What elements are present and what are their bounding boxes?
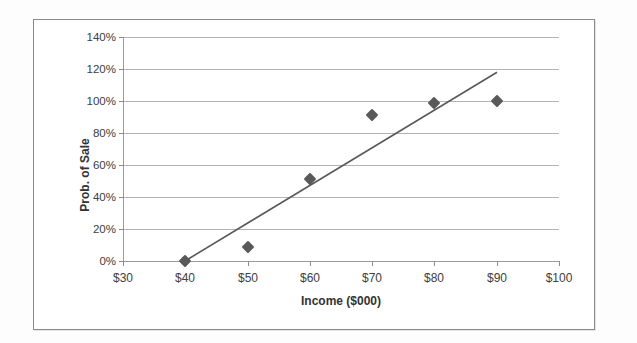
y-tick-label-100: 100% (87, 95, 116, 107)
y-tick-label-60: 60% (93, 159, 116, 171)
x-tick-label-80: $80 (424, 271, 444, 285)
y-tick-label-0: 0% (99, 255, 116, 267)
x-tick-90 (497, 261, 498, 266)
x-tick-60 (310, 261, 311, 266)
scanned-page-background: Prob. of Sale 0% 20% 40% 60% 8 (0, 0, 637, 343)
x-tick-label-70: $70 (362, 271, 382, 285)
y-tick-label-140: 140% (87, 31, 116, 43)
x-tick-50 (248, 261, 249, 266)
x-tick-30 (123, 261, 124, 266)
x-tick-100 (559, 261, 560, 266)
y-axis-title: Prob. of Sale (78, 138, 92, 211)
x-tick-70 (372, 261, 373, 266)
x-tick-label-100: $100 (546, 271, 573, 285)
x-tick-label-60: $60 (300, 271, 320, 285)
x-axis-title: Income ($000) (123, 294, 559, 308)
x-tick-80 (434, 261, 435, 266)
x-tick-label-30: $30 (113, 271, 133, 285)
x-tick-label-50: $50 (238, 271, 258, 285)
y-tick-label-120: 120% (87, 63, 116, 75)
y-tick-label-80: 80% (93, 127, 116, 139)
trendline (123, 37, 559, 261)
chart-frame: Prob. of Sale 0% 20% 40% 60% 8 (33, 19, 595, 330)
y-tick-label-20: 20% (93, 223, 116, 235)
y-tick-label-40: 40% (93, 191, 116, 203)
x-tick-label-40: $40 (175, 271, 195, 285)
plot-area: 0% 20% 40% 60% 80% 100% (123, 37, 559, 261)
x-tick-label-90: $90 (487, 271, 507, 285)
